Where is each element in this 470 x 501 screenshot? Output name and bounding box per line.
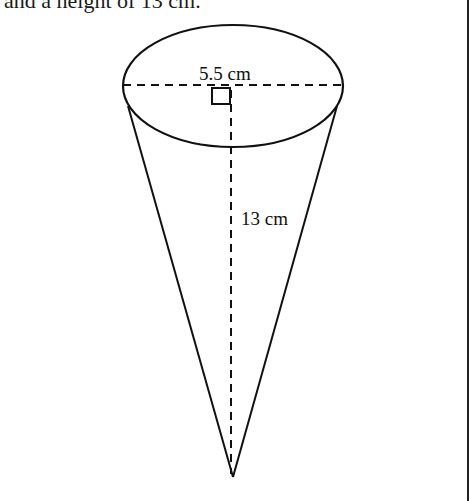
cone-left-side <box>128 106 233 477</box>
diameter-label: 5.5 cm <box>199 63 251 84</box>
cone-right-side <box>233 106 337 477</box>
cone-figure: 5.5 cm 13 cm <box>0 0 470 501</box>
height-label: 13 cm <box>241 208 288 229</box>
